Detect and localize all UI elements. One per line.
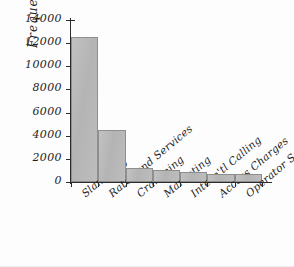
y-tick-label: 12000 bbox=[25, 35, 62, 48]
x-tick-mark bbox=[71, 182, 72, 187]
x-tick-mark bbox=[180, 182, 181, 187]
y-tick-label: 14000 bbox=[25, 12, 62, 25]
x-tick-mark bbox=[262, 182, 263, 187]
y-tick-label: 8000 bbox=[32, 81, 62, 94]
bar bbox=[71, 37, 98, 182]
y-tick-label: 10000 bbox=[25, 58, 62, 71]
bar bbox=[98, 130, 125, 182]
bar-chart: Frequency 020004000600080001000012000140… bbox=[0, 0, 294, 267]
x-tick-mark bbox=[98, 182, 99, 187]
y-tick-mark bbox=[66, 20, 75, 21]
y-tick-label: 6000 bbox=[32, 105, 62, 118]
y-tick-label: 2000 bbox=[32, 151, 62, 164]
x-tick-mark bbox=[207, 182, 208, 187]
x-tick-mark bbox=[153, 182, 154, 187]
y-tick-label: 4000 bbox=[32, 128, 62, 141]
x-tick-mark bbox=[235, 182, 236, 187]
plot-area: 02000400060008000100001200014000Slamming… bbox=[71, 20, 262, 182]
y-tick-label: 0 bbox=[55, 174, 62, 187]
x-tick-mark bbox=[126, 182, 127, 187]
